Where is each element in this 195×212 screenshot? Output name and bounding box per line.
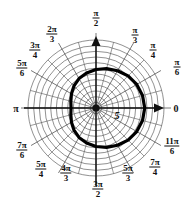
angle-label-denominator: 2	[96, 190, 101, 199]
angle-label-four-pi-over-3: 4π3	[60, 164, 71, 183]
angle-label-three-pi-over-4: 3π4	[29, 41, 40, 60]
angle-label-pi-over-3: π3	[132, 26, 139, 45]
angle-label-pi: π	[13, 103, 18, 114]
angle-label-denominator: 3	[126, 174, 131, 183]
angle-label-seven-pi-over-6: 7π6	[16, 141, 27, 160]
angle-label-denominator: 6	[20, 69, 25, 78]
angle-label-denominator: 3	[64, 174, 69, 183]
angle-label-three-pi-over-2: 3π2	[92, 180, 103, 199]
angle-label-zero: 0	[174, 103, 179, 114]
angle-label-pi-over-4: π4	[150, 41, 157, 60]
angle-label-denominator: 3	[50, 35, 55, 44]
vertical-axis-arrow	[92, 36, 101, 46]
angle-label-denominator: 4	[33, 51, 38, 60]
angle-label-seven-pi-over-4: 7π4	[149, 158, 160, 177]
angle-label-eleven-pi-over-6: 11π6	[164, 137, 179, 156]
angle-label-pi-over-6: π6	[174, 58, 181, 77]
angle-label-denominator: 6	[170, 147, 175, 156]
angle-label-denominator: 6	[20, 151, 25, 160]
angle-label-denominator: 4	[39, 170, 44, 179]
angle-label-pi-over-2: π2	[93, 9, 100, 28]
angle-label-five-pi-over-4: 5π4	[35, 160, 46, 179]
horizontal-axis-arrow	[154, 104, 164, 113]
angle-label-five-pi-over-3: 5π3	[122, 164, 133, 183]
angle-label-denominator: 4	[151, 51, 156, 60]
angle-label-denominator: 2	[94, 19, 99, 28]
angle-label-five-pi-over-6: 5π6	[16, 59, 27, 78]
origin-point	[92, 104, 99, 111]
angle-label-denominator: 6	[175, 68, 180, 77]
curve-value-label: 5	[114, 109, 120, 121]
angle-label-denominator: 4	[153, 168, 158, 177]
angle-label-denominator: 3	[133, 36, 138, 45]
angle-label-two-pi-over-3: 2π3	[46, 25, 57, 44]
